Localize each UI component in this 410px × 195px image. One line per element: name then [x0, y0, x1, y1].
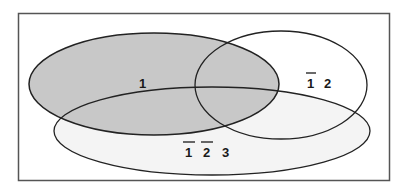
svg-text:2: 2	[203, 145, 210, 160]
svg-text:1: 1	[307, 76, 314, 91]
label-set3-only: 1 2 3	[183, 142, 229, 160]
label-set1: 1	[139, 76, 146, 91]
svg-text:3: 3	[222, 145, 229, 160]
svg-text:1: 1	[185, 145, 192, 160]
venn-diagram: 1 1 2 1 2 3	[0, 0, 410, 195]
svg-text:2: 2	[324, 76, 331, 91]
